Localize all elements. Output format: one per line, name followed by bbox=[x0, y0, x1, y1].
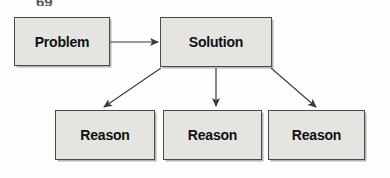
node-solution-label: Solution bbox=[189, 35, 243, 49]
edge-solution-to-reason-3 bbox=[271, 68, 316, 107]
node-solution[interactable]: Solution bbox=[160, 17, 272, 67]
page-number-fragment: 69 bbox=[36, 0, 70, 6]
node-reason-3-label: Reason bbox=[292, 128, 341, 142]
page-number-text: 69 bbox=[36, 0, 70, 6]
node-reason-2-label: Reason bbox=[188, 128, 237, 142]
node-reason-1-label: Reason bbox=[80, 128, 129, 142]
node-reason-3[interactable]: Reason bbox=[268, 110, 365, 160]
node-reason-2[interactable]: Reason bbox=[163, 110, 262, 160]
node-problem-label: Problem bbox=[35, 35, 90, 49]
diagram-canvas: 69 Problem Solution Reason Reason bbox=[0, 0, 390, 178]
node-problem[interactable]: Problem bbox=[14, 17, 110, 66]
edge-solution-to-reason-1 bbox=[104, 68, 161, 107]
node-reason-1[interactable]: Reason bbox=[55, 110, 155, 160]
